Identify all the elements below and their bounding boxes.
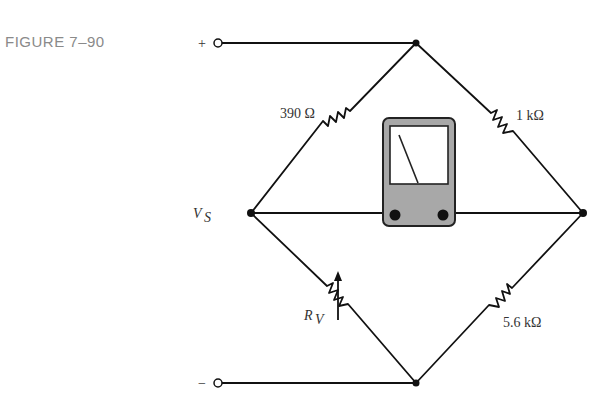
negative-sign: − [198, 376, 206, 391]
meter-face [390, 126, 448, 184]
label-5-6k-ohm: 5.6 kΩ [503, 315, 541, 330]
negative-terminal [214, 379, 222, 387]
label-1k-ohm: 1 kΩ [516, 108, 544, 123]
left-node [247, 209, 255, 217]
meter-terminal-left [390, 210, 401, 221]
svg-text:R: R [303, 308, 313, 323]
top-node [413, 40, 420, 47]
arrow-icon [334, 271, 342, 281]
bridge-circuit-diagram: + − 390 Ω 1 kΩ 5.6 kΩ V S R V [0, 0, 610, 409]
positive-terminal [214, 39, 222, 47]
right-node [579, 209, 587, 217]
label-vs: V S [193, 206, 211, 225]
resistor-5-6k-ohm [416, 213, 583, 383]
svg-text:S: S [204, 210, 211, 225]
label-390-ohm: 390 Ω [280, 106, 315, 121]
variable-resistor-rv [251, 213, 416, 383]
svg-text:V: V [315, 312, 325, 327]
galvanometer [383, 118, 455, 226]
svg-text:V: V [193, 206, 203, 221]
bottom-node [413, 380, 420, 387]
positive-sign: + [198, 36, 206, 51]
label-rv: R V [303, 308, 325, 327]
meter-terminal-right [438, 210, 449, 221]
